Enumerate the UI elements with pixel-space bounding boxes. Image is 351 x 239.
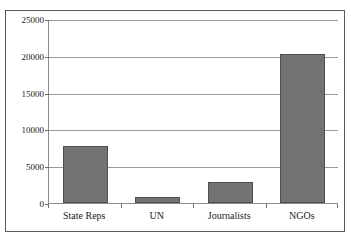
x-axis-tick-mark [121,204,122,208]
y-axis-tick-labels: 0500010000150002000025000 [6,20,44,204]
x-axis-category-label: State Reps [63,211,106,221]
y-axis-tick-label: 15000 [22,89,45,98]
x-axis-category-label: NGOs [289,211,315,221]
x-axis-tick-mark [193,204,194,208]
x-axis-tick-mark [266,204,267,208]
y-axis-tick-mark [45,130,49,131]
y-axis-tick-mark [45,94,49,95]
y-axis-tick-label: 5000 [26,163,44,172]
x-axis-tick-mark [48,204,49,208]
bar [280,54,325,203]
x-axis-tick-marks [48,204,338,209]
bar [63,146,108,203]
x-axis-tick-labels: State RepsUNJournalistsNGOs [48,211,338,229]
gridline [49,20,338,21]
x-axis-category-label: Journalists [208,211,251,221]
y-axis-tick-label: 25000 [22,16,45,25]
x-axis-category-label: UN [150,211,164,221]
bar [208,182,253,203]
plot-area [48,20,338,204]
x-axis-tick-mark [337,204,338,208]
bar [135,197,180,203]
y-axis-tick-mark [45,20,49,21]
chart-frame: 0500010000150002000025000 State RepsUNJo… [5,10,345,232]
y-axis-tick-mark [45,57,49,58]
y-axis-tick-label: 10000 [22,126,45,135]
y-axis-tick-label: 0 [40,200,45,209]
y-axis-tick-mark [45,167,49,168]
y-axis-tick-label: 20000 [22,52,45,61]
